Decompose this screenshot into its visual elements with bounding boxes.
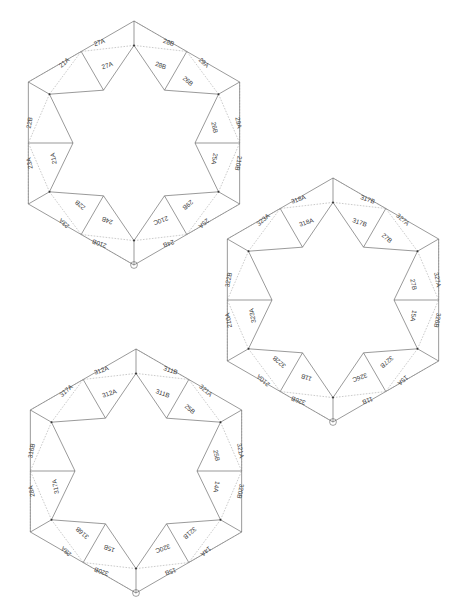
fold-line: [227, 209, 280, 240]
facet-label: 25B: [183, 402, 196, 415]
fold-line: [333, 392, 386, 398]
spoke-edge: [227, 349, 248, 361]
star-outline-edge: [197, 422, 221, 471]
star-outline-edge: [49, 90, 103, 94]
star-outline-edge: [51, 471, 75, 520]
facet-label: 312A: [93, 364, 110, 376]
fold-line: [187, 204, 240, 235]
fold-line: [136, 373, 189, 379]
fold-line: [134, 21, 187, 52]
facet-label: 318A: [290, 193, 307, 205]
facet-label: 312A: [101, 387, 118, 399]
mid-spoke-edge: [280, 209, 302, 248]
facet-label: 23A: [57, 217, 71, 230]
vertex-dot: [48, 191, 50, 193]
facet-label: 25B: [212, 449, 221, 462]
vertex-dot: [220, 421, 222, 423]
star-outline-edge: [248, 300, 272, 349]
fold-line: [81, 45, 134, 51]
star-outline-edge: [49, 192, 103, 196]
spoke-edge: [418, 349, 439, 361]
facet-label: 326B: [433, 312, 443, 328]
facet-label: 28A: [59, 545, 73, 558]
fold-line: [280, 392, 333, 423]
facet-label: 28A: [26, 484, 35, 497]
facet-label: 311B: [155, 387, 171, 398]
facet-label: 210B: [91, 238, 107, 249]
facet-label: 210B: [234, 155, 244, 171]
facet-label: 27B: [380, 231, 393, 244]
facet-label: 27A: [101, 60, 115, 71]
facet-label: 28B: [154, 60, 167, 70]
facet-label: 28B: [162, 37, 175, 47]
vertex-dot: [135, 372, 137, 374]
fold-line: [136, 349, 189, 380]
vertex-dot: [133, 240, 135, 242]
mid-spoke-edge: [364, 209, 386, 248]
vertex-dot: [332, 201, 334, 203]
facet-label: 25A: [210, 152, 219, 165]
mid-spoke-edge: [280, 353, 302, 392]
star-outline-edge: [49, 94, 73, 143]
facet-label: 322B: [271, 355, 287, 370]
fold-line: [81, 235, 134, 266]
fold-line: [280, 202, 333, 208]
vertex-dot: [332, 397, 334, 399]
facet-label: 210C: [152, 215, 169, 227]
diagram-canvas: 27A28B27A28B29A29A26B26B210B25A25A29B24B…: [0, 0, 457, 610]
facet-label: 23A: [24, 156, 33, 169]
facet-label: 22B: [73, 199, 86, 212]
facet-label: 11B: [361, 396, 374, 406]
mid-spoke-edge: [81, 196, 103, 235]
mid-spoke-edge: [165, 52, 187, 91]
facet-label: 21A: [57, 56, 71, 69]
facet-label: 320B: [236, 483, 246, 499]
star-outline-edge: [195, 143, 219, 192]
fold-line: [280, 392, 333, 398]
fold-line: [333, 202, 386, 208]
star-outline-edge: [248, 247, 302, 251]
facet-label: 311B: [163, 364, 179, 375]
fold-line: [136, 563, 189, 569]
star-outline-edge: [49, 143, 73, 192]
mid-spoke-edge: [167, 380, 189, 419]
star-outline-edge: [51, 422, 75, 471]
fold-line: [386, 361, 439, 392]
vertex-dot: [218, 93, 220, 95]
facet-label: 321B: [182, 526, 198, 541]
vertex-dot: [50, 519, 52, 521]
vertex-dot: [218, 191, 220, 193]
mid-spoke-edge: [83, 380, 105, 419]
facet-label: 25A: [197, 217, 211, 230]
facet-label: 317B: [352, 216, 368, 227]
facet-label: 321A: [236, 443, 246, 460]
star-outline-edge: [248, 251, 272, 300]
facet-label: 326B: [290, 395, 306, 406]
facet-label: 24B: [162, 239, 175, 249]
spoke-edge: [28, 192, 49, 204]
fold-line: [83, 563, 136, 594]
facet-label: 11B: [300, 373, 313, 383]
facet-label: 15A: [396, 374, 410, 387]
star-outline-edge: [51, 520, 105, 524]
star-outline-edge: [364, 247, 418, 251]
spoke-edge: [28, 82, 49, 94]
spoke-edge: [418, 239, 439, 251]
facet-label: 321A: [198, 383, 214, 399]
fold-line: [28, 52, 81, 83]
vertex-dot: [48, 93, 50, 95]
facet-label: 22B: [25, 116, 34, 129]
vertex-dot: [50, 421, 52, 423]
facet-label: 317B: [360, 193, 376, 204]
facet-label: 323A: [255, 211, 271, 227]
facet-label: 317A: [58, 382, 74, 398]
star-outline-edge: [165, 192, 219, 196]
facet-label: 316B: [74, 526, 90, 541]
spoke-edge: [219, 192, 240, 204]
facet-label: 327A: [395, 212, 411, 228]
vertex-dot: [417, 250, 419, 252]
vertex-dot: [133, 44, 135, 46]
fold-line: [83, 563, 136, 569]
facet-label: 24B: [101, 216, 114, 226]
vertex-dot: [247, 348, 249, 350]
